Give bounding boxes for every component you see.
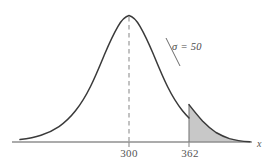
x-axis-variable-label: x bbox=[257, 138, 261, 149]
shaded-tail-region bbox=[189, 105, 250, 142]
normal-distribution-figure: σ = 50 300 362 x bbox=[0, 0, 278, 164]
bell-curve bbox=[20, 16, 189, 140]
distribution-plot bbox=[0, 0, 278, 164]
tick-label-cutoff: 362 bbox=[181, 147, 199, 159]
tick-label-mean: 300 bbox=[120, 147, 138, 159]
sigma-annotation-label: σ = 50 bbox=[172, 41, 202, 52]
